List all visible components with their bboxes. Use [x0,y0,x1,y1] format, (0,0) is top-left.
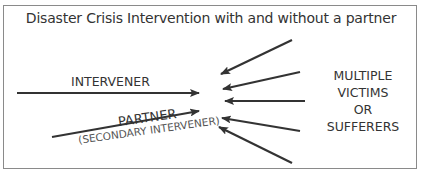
victims-line-1: MULTIPLE [318,67,408,84]
victims-line-4: SUFFERERS [318,118,408,135]
victims-line-2: VICTIMS [318,84,408,101]
arrow-3-icon [221,40,292,74]
arrow-6-icon [222,118,300,131]
arrow-4-icon [223,72,300,89]
victims-line-3: OR [318,101,408,118]
arrow-7-icon [219,127,292,163]
intervener-label: INTERVENER [71,74,150,89]
victims-node: MULTIPLE VICTIMS OR SUFFERERS [318,67,408,135]
